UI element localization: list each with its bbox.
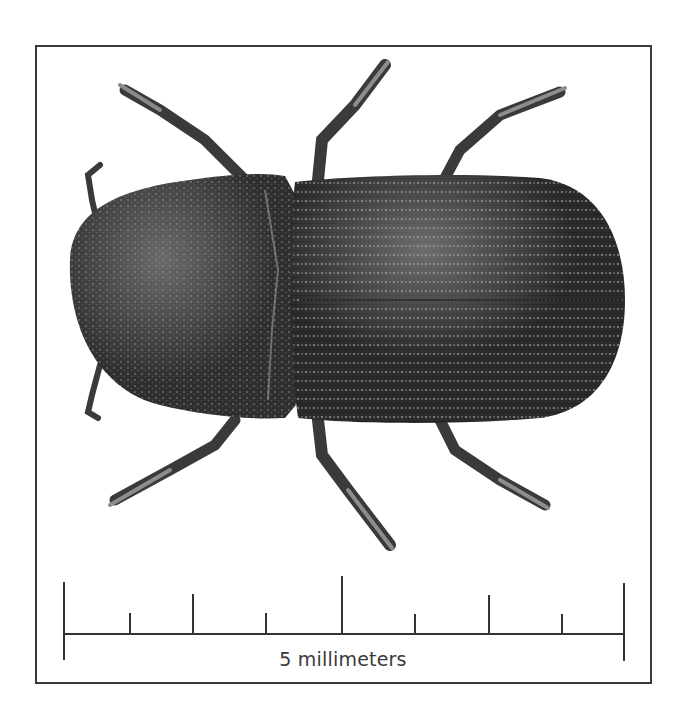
pronotum [70, 174, 300, 419]
scale-bar-label: 5 millimeters [0, 648, 686, 670]
elytra [291, 175, 625, 423]
beetle-specimen-image [0, 0, 686, 713]
